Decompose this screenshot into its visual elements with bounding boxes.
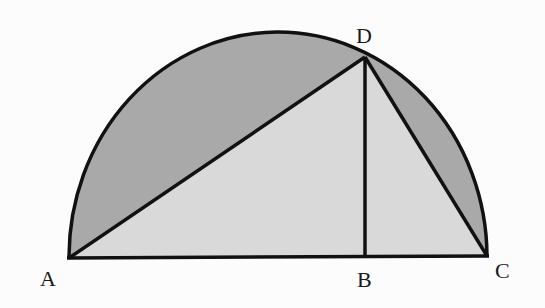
label-b: B xyxy=(357,267,372,292)
label-a: A xyxy=(40,266,56,291)
label-d: D xyxy=(356,23,372,48)
segment-ac xyxy=(67,256,489,258)
geometry-diagram: A B C D xyxy=(0,0,545,308)
label-c: C xyxy=(495,258,510,283)
